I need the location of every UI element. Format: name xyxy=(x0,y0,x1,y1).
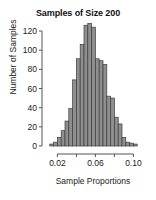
histogram-bar xyxy=(73,80,77,146)
x-tick-label: 0.10 xyxy=(125,158,142,168)
histogram-bar xyxy=(133,144,137,146)
x-tick-label: 0.06 xyxy=(87,158,104,168)
x-axis: 0.020.060.10 xyxy=(49,154,142,168)
histogram-bar xyxy=(111,98,115,146)
y-tick-label: 80 xyxy=(28,64,38,74)
y-tick-label: 20 xyxy=(28,122,38,132)
plot-area: 020406080100120 0.020.060.10 xyxy=(0,0,156,200)
histogram-bar xyxy=(107,96,111,146)
histogram-bars xyxy=(50,23,137,146)
histogram-bar xyxy=(76,59,80,146)
histogram-bar xyxy=(84,25,88,146)
histogram-bar xyxy=(57,137,61,146)
y-tick-label: 0 xyxy=(32,141,37,151)
histogram-bar xyxy=(65,121,69,146)
histogram-bar xyxy=(61,131,65,146)
histogram-bar xyxy=(92,27,96,146)
histogram-bar xyxy=(122,137,126,146)
histogram-bar xyxy=(69,109,73,146)
histogram-bar xyxy=(126,142,130,146)
histogram-bar xyxy=(88,23,92,146)
y-axis: 020406080100120 xyxy=(23,26,42,151)
y-tick-label: 60 xyxy=(28,84,38,94)
y-tick-label: 120 xyxy=(23,26,37,36)
histogram-bar xyxy=(80,44,84,146)
histogram-bar xyxy=(50,144,54,146)
histogram-bar xyxy=(95,59,99,146)
histogram-bar xyxy=(118,124,122,146)
histogram-bar xyxy=(99,61,103,146)
histogram-bar xyxy=(103,65,107,146)
x-tick-label: 0.02 xyxy=(49,158,66,168)
y-tick-label: 100 xyxy=(23,45,37,55)
y-tick-label: 40 xyxy=(28,103,38,113)
histogram-bar xyxy=(114,117,118,146)
histogram-bar xyxy=(130,143,134,146)
histogram-figure: Samples of Size 200 Number of Samples Sa… xyxy=(0,0,156,200)
histogram-bar xyxy=(54,142,58,146)
